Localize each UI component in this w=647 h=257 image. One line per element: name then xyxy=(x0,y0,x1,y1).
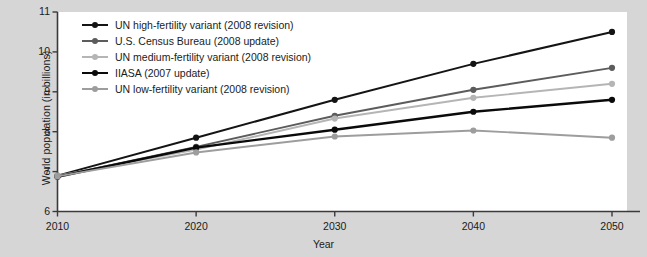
legend-label: IIASA (2007 update) xyxy=(115,68,210,79)
legend-label: U.S. Census Bureau (2008 update) xyxy=(115,36,279,47)
y-tick-label: 11 xyxy=(24,6,50,17)
legend-item: UN medium-fertility variant (2008 revisi… xyxy=(80,49,340,65)
series-data-point xyxy=(470,61,476,67)
chart-legend: UN high-fertility variant (2008 revision… xyxy=(80,17,340,97)
legend-label: UN high-fertility variant (2008 revision… xyxy=(115,20,294,31)
series-data-point xyxy=(54,173,60,179)
series-data-point xyxy=(470,127,476,133)
x-tick-label: 2040 xyxy=(443,220,503,232)
series-data-point xyxy=(332,115,338,121)
x-tick-label: 2030 xyxy=(305,220,365,232)
legend-item: IIASA (2007 update) xyxy=(80,65,340,81)
series-data-point xyxy=(470,95,476,101)
series-data-point xyxy=(332,97,338,103)
legend-label: UN medium-fertility variant (2008 revisi… xyxy=(115,52,311,63)
series-data-point xyxy=(193,149,199,155)
series-data-point xyxy=(609,65,615,71)
series-data-point xyxy=(609,81,615,87)
legend-item: U.S. Census Bureau (2008 update) xyxy=(80,33,340,49)
series-data-point xyxy=(332,127,338,133)
x-tick-label: 2010 xyxy=(28,220,88,232)
legend-marker-icon xyxy=(80,82,110,96)
legend-marker-icon xyxy=(80,66,110,80)
series-data-point xyxy=(470,109,476,115)
legend-marker-icon xyxy=(80,18,110,32)
series-data-point xyxy=(609,97,615,103)
legend-item: UN high-fertility variant (2008 revision… xyxy=(80,17,340,33)
population-projection-chart: 67891011 20102020203020402050 World popu… xyxy=(0,0,647,257)
series-data-point xyxy=(193,135,199,141)
x-tick-label: 2020 xyxy=(166,220,226,232)
series-data-point xyxy=(609,135,615,141)
legend-label: UN low-fertility variant (2008 revision) xyxy=(115,84,289,95)
x-tick-label: 2050 xyxy=(582,220,642,232)
series-data-point xyxy=(332,133,338,139)
legend-item: UN low-fertility variant (2008 revision) xyxy=(80,81,340,97)
x-axis-title: Year xyxy=(0,238,647,250)
y-axis-title: World population (in billions) xyxy=(40,28,52,208)
series-data-point xyxy=(470,87,476,93)
series-data-point xyxy=(609,29,615,35)
legend-marker-icon xyxy=(80,50,110,64)
legend-marker-icon xyxy=(80,34,110,48)
